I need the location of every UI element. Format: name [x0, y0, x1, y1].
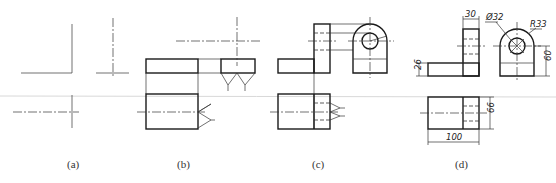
dim-66: 66 — [486, 102, 496, 113]
dim-radius-33: R33 — [530, 19, 547, 29]
label-a: (a) — [67, 158, 80, 171]
dim-26: 26 — [413, 59, 423, 70]
panel-a — [13, 18, 129, 128]
orthographic-drawing: 30 26 Ø32 R33 60 66 1 — [0, 0, 556, 183]
dim-30: 30 — [465, 9, 476, 19]
label-b: (b) — [177, 158, 190, 171]
label-d: (d) — [455, 158, 468, 171]
panel-d: 30 26 Ø32 R33 60 66 1 — [413, 9, 553, 145]
dim-100: 100 — [446, 132, 462, 142]
panel-b — [137, 17, 262, 129]
dim-60: 60 — [543, 50, 553, 61]
panel-c — [270, 17, 394, 129]
label-c: (c) — [312, 158, 325, 171]
dim-diameter-32: Ø32 — [485, 12, 504, 22]
